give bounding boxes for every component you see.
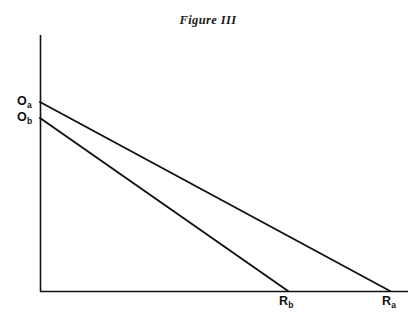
label-r-b: Rb	[279, 295, 293, 308]
plot-canvas	[0, 0, 416, 322]
label-o-a-subscript: a	[27, 100, 32, 110]
label-o-b: Ob	[17, 111, 32, 124]
figure-root: Figure III Oa Ob Rb Ra	[0, 0, 416, 322]
label-r-a-base: R	[382, 294, 391, 308]
label-r-b-base: R	[279, 294, 288, 308]
label-r-a-subscript: a	[391, 300, 396, 310]
line-a	[40, 102, 390, 291]
label-r-a: Ra	[382, 295, 396, 308]
line-b	[40, 118, 288, 291]
label-o-a-base: O	[17, 94, 27, 108]
label-o-b-base: O	[17, 110, 27, 124]
label-o-b-subscript: b	[27, 116, 32, 126]
label-r-b-subscript: b	[288, 300, 293, 310]
label-o-a: Oa	[17, 95, 31, 108]
